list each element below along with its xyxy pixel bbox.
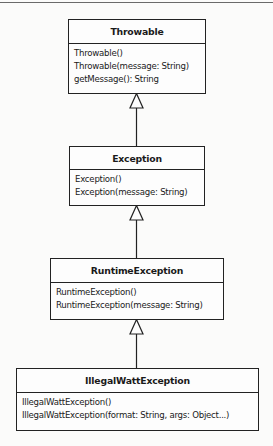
class-illegal-watt-exception: IllegalWattException IllegalWattExceptio… (16, 368, 259, 431)
operation: IllegalWattException() (22, 396, 258, 409)
class-throwable: Throwable Throwable() Throwable(message:… (68, 19, 206, 94)
class-name: RuntimeException (51, 259, 223, 283)
operation: getMessage(): String (74, 73, 205, 86)
operation: Exception(message: String) (75, 186, 204, 199)
operations-list: Exception() Exception(message: String) (70, 170, 204, 199)
operations-list: RuntimeException() RuntimeException(mess… (51, 283, 223, 312)
generalization-arrow-runtime-exception (130, 206, 143, 259)
class-runtime-exception: RuntimeException RuntimeException() Runt… (50, 258, 224, 320)
operation: RuntimeException(message: String) (56, 299, 223, 312)
operation: Exception() (75, 173, 204, 186)
class-name: Exception (70, 147, 204, 170)
operation: RuntimeException() (56, 286, 223, 299)
class-name: IllegalWattException (17, 369, 258, 393)
operation: Throwable() (74, 47, 205, 60)
generalization-arrow-exception-throwable (130, 94, 143, 147)
operation: Throwable(message: String) (74, 60, 205, 73)
operations-list: Throwable() Throwable(message: String) g… (69, 44, 205, 87)
generalization-arrow-illegalwatt-runtime (130, 320, 143, 369)
operation: IllegalWattException(format: String, arg… (22, 409, 258, 422)
class-exception: Exception Exception() Exception(message:… (69, 146, 205, 206)
class-name: Throwable (69, 20, 205, 44)
operations-list: IllegalWattException() IllegalWattExcept… (17, 393, 258, 422)
